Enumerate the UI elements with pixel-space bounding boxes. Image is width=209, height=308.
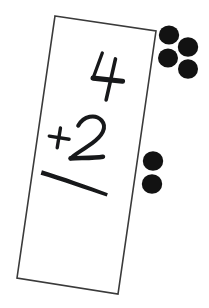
counter-dot: [143, 151, 163, 171]
counter-dot: [178, 37, 198, 57]
image-canvas: 4 + 2 4 + 2 4 2 Handwritten arithmetic f…: [0, 0, 209, 308]
counter-dot: [158, 48, 178, 67]
flashcard-scene: [0, 0, 209, 308]
counter-dot: [159, 25, 179, 44]
counter-dot: [142, 174, 162, 194]
counter-dot: [178, 59, 198, 79]
